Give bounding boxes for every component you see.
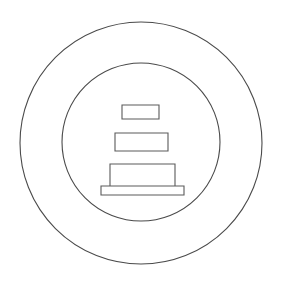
line-art-illustration — [0, 0, 281, 285]
tier-top-rect — [122, 105, 159, 119]
tier-middle-rect — [115, 133, 168, 151]
tier-bottom-rect — [110, 164, 175, 187]
base-plinth-rect — [101, 186, 184, 195]
image-canvas — [0, 0, 281, 285]
